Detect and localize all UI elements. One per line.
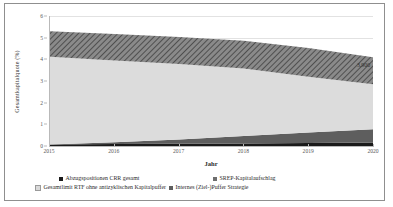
y-tick-mark xyxy=(44,59,47,60)
x-tick-label: 2020 xyxy=(367,148,378,154)
legend-item-abzugspositionen[interactable]: Abzugspositionen CRR gesamt xyxy=(59,176,213,182)
y-tick-label: 6 xyxy=(40,13,43,19)
legend-item-label: Gesamtlimit RTF ohne antizyklischen Kapi… xyxy=(44,185,167,191)
x-tick-mark xyxy=(114,144,115,147)
y-tick-mark xyxy=(44,37,47,38)
plot-wrapper xyxy=(49,16,373,146)
y-tick-label: 3 xyxy=(40,78,43,84)
y-tick-mark xyxy=(44,124,47,125)
y-axis-title: Gesamtkapitalquote (%) xyxy=(10,16,22,146)
legend-item-label: Abzugspositionen CRR gesamt xyxy=(66,176,140,182)
legend-swatch-icon xyxy=(59,177,63,181)
legend-swatch-icon xyxy=(213,177,217,181)
x-tick-mark xyxy=(243,144,244,147)
x-tick-label: 2017 xyxy=(173,148,184,154)
x-tick-label: 2016 xyxy=(108,148,119,154)
area-svg xyxy=(50,16,373,146)
y-tick-label: 2 xyxy=(40,100,43,106)
y-tick-mark xyxy=(44,16,47,17)
y-tick-mark xyxy=(44,146,47,147)
y-tick-mark xyxy=(44,102,47,103)
x-tick-mark xyxy=(308,144,309,147)
y-tick-label: 5 xyxy=(40,35,43,41)
x-tick-label: 2015 xyxy=(43,148,54,154)
legend-item-srep[interactable]: SREP-Kapitalaufschlag xyxy=(213,176,275,182)
legend-item-label: Internes (Ziel-)Puffer Strategie xyxy=(176,185,249,191)
gridline xyxy=(50,146,373,147)
y-tick-label: 4 xyxy=(40,56,43,62)
legend-item-gesamtlimit[interactable]: Gesamtlimit RTF ohne antizyklischen Kapi… xyxy=(35,185,166,191)
x-axis-title: Jahr xyxy=(49,160,373,167)
end-value-label: 3,900 xyxy=(357,62,370,68)
y-axis-title-text: Gesamtkapitalquote (%) xyxy=(13,50,20,113)
y-axis-ticks: 0123456 xyxy=(23,16,47,146)
x-tick-label: 2019 xyxy=(303,148,314,154)
y-tick-label: 1 xyxy=(40,121,43,127)
stacked-area-series xyxy=(50,16,373,146)
legend-row: Abzugspositionen CRR gesamt SREP-Kapital… xyxy=(23,174,368,183)
plot-area xyxy=(49,16,373,146)
chart-legend: Abzugspositionen CRR gesamt SREP-Kapital… xyxy=(23,174,368,192)
legend-row: Gesamtlimit RTF ohne antizyklischen Kapi… xyxy=(23,183,368,192)
legend-item-label: SREP-Kapitalaufschlag xyxy=(220,176,276,182)
x-tick-mark xyxy=(49,144,50,147)
x-axis-ticks: 201520162017201820192020 xyxy=(49,148,373,160)
x-tick-mark xyxy=(373,144,374,147)
y-tick-mark xyxy=(44,81,47,82)
x-tick-mark xyxy=(179,144,180,147)
x-tick-label: 2018 xyxy=(238,148,249,154)
legend-item-internes-puffer[interactable]: Internes (Ziel-)Puffer Strategie xyxy=(169,185,248,191)
legend-swatch-icon xyxy=(169,186,173,190)
legend-swatch-icon xyxy=(35,185,41,191)
chart-frame: Gesamtkapitalquote (%) 0123456 3,900 xyxy=(4,3,385,201)
